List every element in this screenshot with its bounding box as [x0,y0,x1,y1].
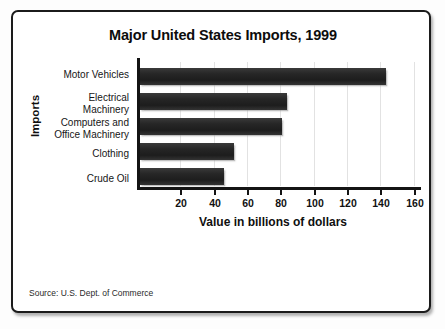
x-tick-120 [347,190,349,195]
plot-area [139,62,413,186]
x-tick-20 [180,190,182,195]
gridline-160 [414,62,415,186]
chart-title: Major United States Imports, 1999 [13,27,433,43]
x-tick-140 [380,190,382,195]
y-axis-line [137,58,140,190]
bar-motor-vehicles [139,68,386,85]
bar-clothing [139,143,234,160]
x-tick-80 [280,190,282,195]
x-tick-label-160: 160 [395,197,435,209]
category-label-line: Crude Oil [21,173,129,185]
bar-computers-office-machinery [139,118,282,135]
bar-crude-oil [139,168,224,185]
x-tick-100 [314,190,316,195]
bar-electrical-machinery [139,93,287,110]
x-tick-40 [214,190,216,195]
chart-card: Major United States Imports, 1999 Motor … [11,10,431,313]
x-tick-60 [247,190,249,195]
x-tick-160 [414,190,416,195]
y-axis-title: Imports [29,76,41,156]
category-label-crude-oil: Crude Oil [21,173,129,185]
x-axis-title: Value in billions of dollars [123,215,423,229]
scan-background: Major United States Imports, 1999 Motor … [0,0,445,329]
source-note: Source: U.S. Dept. of Commerce [29,288,153,298]
